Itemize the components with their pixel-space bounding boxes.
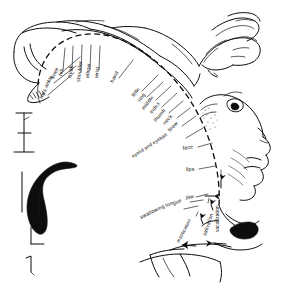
- label-toes: toes: [38, 87, 48, 99]
- label-salivation: salivation: [201, 212, 214, 236]
- label-swallowing: swallowing: [139, 203, 166, 220]
- label-hand: hand: [109, 70, 120, 84]
- label-shoulder: shoulder: [75, 60, 83, 82]
- label-vocalization: vocalization: [215, 205, 220, 232]
- label-face: face: [182, 143, 193, 151]
- label-tongue: tongue: [164, 197, 182, 208]
- label-elbow: elbow: [84, 63, 91, 78]
- label-jaw: jaw: [184, 193, 194, 200]
- label-wrist: wrist: [93, 66, 100, 78]
- label-lips: lips: [186, 166, 195, 172]
- label-hip: hip: [57, 68, 64, 76]
- label-trunk: trunk: [66, 65, 74, 78]
- motor-homunculus-figure: toesanklekneehiptrunkshoulderelbowwristh…: [0, 0, 281, 292]
- label-mastication: mastication: [175, 218, 192, 243]
- label-eyelid-and-eyeball: eyelid and eyeball: [131, 132, 168, 159]
- label-text-layer: toesanklekneehiptrunkshoulderelbowwristh…: [0, 0, 281, 292]
